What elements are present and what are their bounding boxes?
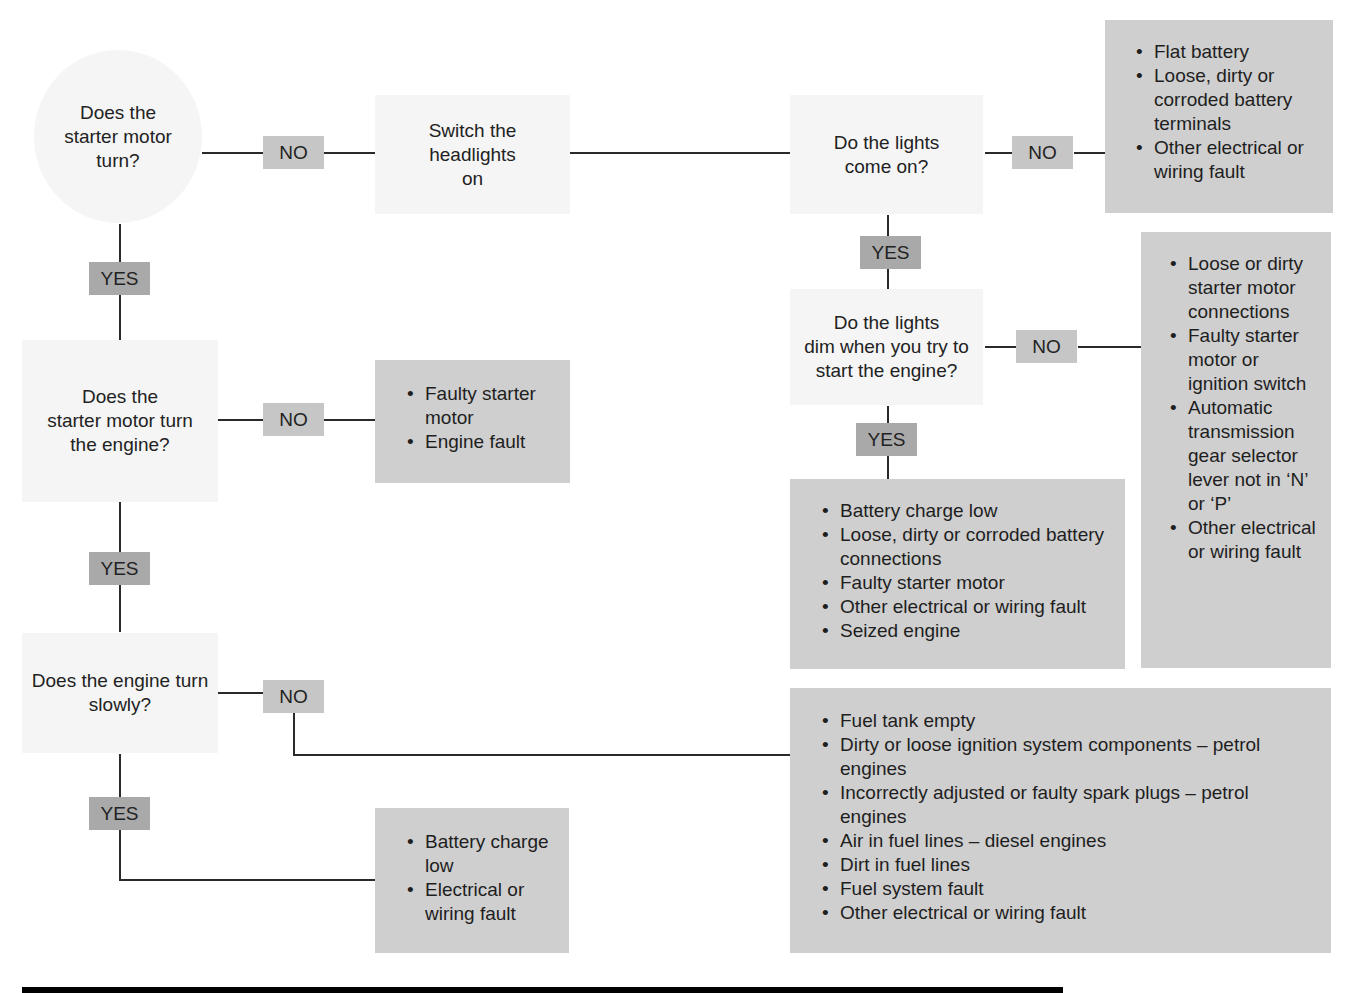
connector-headlights-q4 — [570, 152, 791, 154]
question-starter-motor-turn: Does the starter motor turn? — [34, 50, 202, 223]
connector-no-starter-fault — [324, 419, 376, 421]
question-text: Do the lights — [804, 311, 969, 335]
footer-rule — [22, 987, 1063, 993]
cause-item: Loose, dirty or corroded battery termina… — [1132, 64, 1323, 136]
cause-item: Faulty starter motor — [818, 571, 1115, 595]
no-badge: NO — [1012, 136, 1073, 169]
yes-badge: YES — [860, 236, 921, 269]
step-text: Switch the — [429, 119, 517, 143]
answer-engine-not-slow: Fuel tank empty Dirty or loose ignition … — [790, 688, 1331, 953]
no-badge: NO — [263, 680, 324, 713]
cause-item: Flat battery — [1132, 40, 1323, 64]
connector-yes-to-battery — [119, 879, 376, 881]
connector-no-lights-off — [1074, 152, 1105, 154]
question-text: start the engine? — [804, 359, 969, 383]
cause-item: Air in fuel lines – diesel engines — [818, 829, 1291, 853]
question-text: starter motor — [64, 125, 172, 149]
step-switch-headlights-on: Switch the headlights on — [375, 95, 570, 214]
cause-item: Loose, dirty or corroded battery connect… — [818, 523, 1115, 571]
answer-starter-no-turn-engine: Faulty starter motor Engine fault — [375, 360, 570, 483]
question-lights-dim: Do the lights dim when you try to start … — [790, 289, 983, 405]
question-text: come on? — [834, 155, 940, 179]
yes-badge: YES — [89, 262, 150, 295]
cause-item: Fuel tank empty — [818, 709, 1291, 733]
question-starter-turns-engine: Does the starter motor turn the engine? — [22, 340, 218, 502]
no-badge: NO — [263, 403, 324, 436]
question-text: Does the — [47, 385, 193, 409]
cause-item: Battery charge low — [403, 830, 559, 878]
yes-badge: YES — [89, 552, 150, 585]
question-text: the engine? — [47, 433, 193, 457]
connector-no-down — [293, 712, 295, 755]
question-text: Do the lights — [834, 131, 940, 155]
cause-item: Engine fault — [403, 430, 560, 454]
cause-item: Faulty starter motor or ignition switch — [1166, 324, 1323, 396]
cause-item: Incorrectly adjusted or faulty spark plu… — [818, 781, 1291, 829]
question-text: Does the — [64, 101, 172, 125]
question-engine-turn-slowly: Does the engine turn slowly? — [22, 633, 218, 753]
step-text: headlights — [429, 143, 517, 167]
connector-no-headlights — [324, 152, 376, 154]
answer-engine-slow: Battery charge low Electrical or wiring … — [375, 808, 569, 953]
no-badge: NO — [263, 136, 324, 169]
answer-lights-no-dim: Loose or dirty starter motor connections… — [1141, 232, 1331, 668]
step-text: on — [429, 167, 517, 191]
cause-item: Battery charge low — [818, 499, 1115, 523]
question-text: slowly? — [32, 693, 208, 717]
cause-item: Fuel system fault — [818, 877, 1291, 901]
yes-badge: YES — [856, 423, 917, 456]
question-text: dim when you try to — [804, 335, 969, 359]
cause-item: Other electrical or wiring fault — [1132, 136, 1323, 184]
connector-no-lights-no-dim — [1078, 346, 1141, 348]
no-badge: NO — [1016, 330, 1077, 363]
cause-item: Loose or dirty starter motor connections — [1166, 252, 1323, 324]
connector-q3-no — [218, 692, 263, 694]
question-text: starter motor turn — [47, 409, 193, 433]
question-text: turn? — [64, 149, 172, 173]
question-lights-come-on: Do the lights come on? — [790, 95, 983, 214]
connector-no-to-fuel — [293, 754, 790, 756]
cause-item: Seized engine — [818, 619, 1115, 643]
cause-item: Electrical or wiring fault — [403, 878, 559, 926]
question-text: Does the engine turn — [32, 669, 208, 693]
connector-q1-no — [202, 152, 263, 154]
cause-item: Other electrical or wiring fault — [818, 595, 1115, 619]
connector-q5-no — [985, 346, 1016, 348]
connector-q2-no — [218, 419, 263, 421]
cause-item: Dirt in fuel lines — [818, 853, 1291, 877]
cause-item: Other electrical or wiring fault — [1166, 516, 1323, 564]
connector-q4-no — [985, 152, 1012, 154]
cause-item: Other electrical or wiring fault — [818, 901, 1291, 925]
yes-badge: YES — [89, 797, 150, 830]
cause-item: Faulty starter motor — [403, 382, 560, 430]
answer-lights-off: Flat battery Loose, dirty or corroded ba… — [1105, 20, 1333, 213]
cause-item: Automatic transmission gear selector lev… — [1166, 396, 1323, 516]
answer-lights-dim: Battery charge low Loose, dirty or corro… — [790, 479, 1125, 669]
cause-item: Dirty or loose ignition system component… — [818, 733, 1291, 781]
